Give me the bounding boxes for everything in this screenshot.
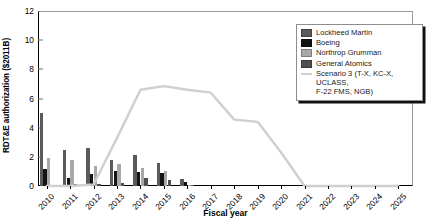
x-tick-mark [47, 186, 48, 189]
x-tick-mark [351, 186, 352, 189]
y-tick-label: 4 [29, 123, 34, 133]
x-tick-mark [328, 186, 329, 189]
legend-item-label: Northrop Grumman [316, 48, 381, 57]
y-axis-title: RDT&E authorization ($2011B) [0, 0, 14, 190]
y-tick-label: 0 [29, 181, 34, 191]
x-tick-mark [117, 186, 118, 189]
x-tick-mark [258, 186, 259, 189]
x-tick-mark [234, 186, 235, 189]
x-tick-mark [70, 186, 71, 189]
legend-item-label: Lockheed Martin [316, 28, 372, 37]
legend-item-label: General Atomics [316, 59, 372, 68]
legend-color-swatch-icon [301, 60, 312, 68]
y-axis-title-text: RDT&E authorization ($2011B) [3, 37, 12, 152]
x-tick-mark [398, 186, 399, 189]
y-tick-label: 10 [25, 35, 34, 45]
x-tick-mark [187, 186, 188, 189]
legend-item[interactable]: Scenario 3 (T-X, KC-X, UCLASS, F-22 FMS,… [301, 69, 419, 97]
y-tick-label: 2 [29, 152, 34, 162]
x-tick-mark [211, 186, 212, 189]
legend-item-label: Boeing [316, 38, 340, 47]
legend-color-swatch-icon [301, 49, 312, 57]
y-tick-label: 12 [25, 6, 34, 16]
legend-color-swatch-icon [301, 29, 312, 37]
x-tick-mark [94, 186, 95, 189]
legend-line-swatch-icon [301, 70, 312, 78]
legend-item[interactable]: Lockheed Martin [301, 28, 419, 37]
legend-item[interactable]: Northrop Grumman [301, 48, 419, 57]
x-tick-mark [375, 186, 376, 189]
legend-item[interactable]: Boeing [301, 38, 419, 47]
x-tick-mark [164, 186, 165, 189]
chart-legend: Lockheed MartinBoeingNorthrop GrummanGen… [296, 24, 423, 101]
x-tick-mark [140, 186, 141, 189]
legend-color-swatch-icon [301, 39, 312, 47]
chart-figure: RDT&E authorization ($2011B) 024681012 2… [0, 0, 426, 224]
legend-item-label: Scenario 3 (T-X, KC-X, UCLASS, F-22 FMS,… [316, 69, 419, 97]
x-tick-mark [305, 186, 306, 189]
x-tick-mark [281, 186, 282, 189]
legend-item[interactable]: General Atomics [301, 59, 419, 68]
y-tick-label: 8 [29, 64, 34, 74]
x-axis-title: Fiscal year [38, 208, 413, 218]
y-tick-label: 6 [29, 94, 34, 104]
